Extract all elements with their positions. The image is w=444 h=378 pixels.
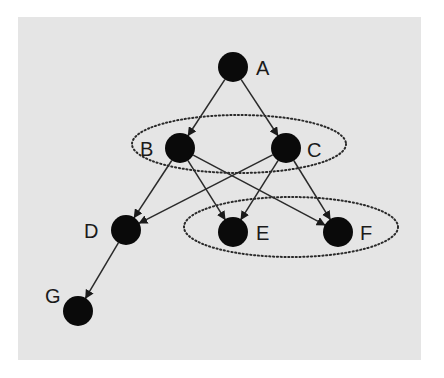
graph-diagram: ABCDEFG — [0, 0, 444, 378]
node-C — [271, 133, 301, 163]
node-G — [63, 296, 93, 326]
node-label-A: A — [256, 57, 270, 79]
node-label-C: C — [307, 139, 321, 161]
node-label-D: D — [84, 220, 98, 242]
node-A — [218, 52, 248, 82]
node-label-B: B — [140, 138, 153, 160]
node-label-G: G — [45, 285, 61, 307]
node-E — [218, 217, 248, 247]
node-label-E: E — [256, 222, 269, 244]
node-D — [111, 215, 141, 245]
node-F — [323, 217, 353, 247]
node-label-F: F — [360, 222, 372, 244]
node-B — [165, 133, 195, 163]
